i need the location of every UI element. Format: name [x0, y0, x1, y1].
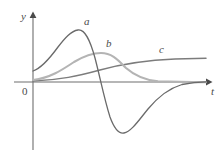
- curve-label-a: a: [84, 16, 90, 27]
- curve-figure: y t 0 a b c: [0, 0, 223, 155]
- curve-b: [33, 53, 206, 82]
- y-axis-label: y: [21, 11, 26, 22]
- curve-label-b: b: [106, 38, 112, 49]
- plot-canvas: [0, 0, 223, 155]
- t-axis-label: t: [211, 86, 214, 97]
- y-axis-arrowhead: [30, 12, 37, 19]
- origin-label: 0: [22, 86, 28, 97]
- curve-label-c: c: [159, 44, 164, 55]
